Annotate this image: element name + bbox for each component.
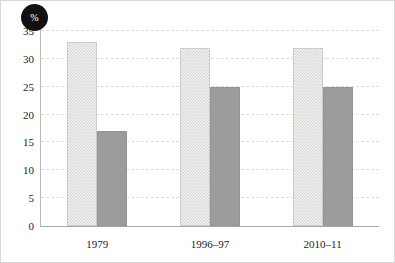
y-tick-label-0: 0: [29, 220, 35, 232]
y-tick-label-15: 15: [23, 136, 34, 148]
bar-series-1-1996–97: [180, 48, 210, 226]
bar-group: [266, 31, 379, 226]
bar-series-2-1996–97: [210, 87, 240, 226]
y-tick-label-25: 25: [23, 81, 34, 93]
bar-series-1-1979: [67, 42, 97, 226]
bar-series-2-2010–11: [323, 87, 353, 226]
x-tick-label-1996–97: 1996–97: [191, 238, 230, 250]
bar-group: [154, 31, 267, 226]
bar-group: [41, 31, 154, 226]
percent-unit-badge: %: [21, 4, 48, 31]
x-tick-label-1979: 1979: [86, 238, 108, 250]
bar-series-2-1979: [97, 131, 127, 226]
bar-series-1-2010–11: [293, 48, 323, 226]
percent-badge-label: %: [30, 13, 38, 23]
x-tick-label-2010–11: 2010–11: [304, 238, 342, 250]
y-tick-label-5: 5: [29, 192, 35, 204]
bar-groups: [41, 31, 379, 226]
y-tick-label-10: 10: [23, 164, 34, 176]
x-axis-line: [40, 226, 379, 227]
plot-area: 05101520253035 19791996–972010–11: [41, 31, 379, 226]
y-axis-line: [40, 15, 41, 227]
y-tick-label-20: 20: [23, 109, 34, 121]
chart-figure: % 05101520253035 19791996–972010–11: [0, 0, 395, 263]
y-tick-label-30: 30: [23, 53, 34, 65]
